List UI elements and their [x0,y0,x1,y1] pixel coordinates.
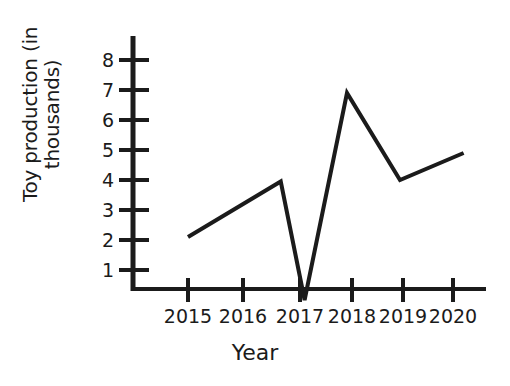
data-series-line [188,93,464,300]
y-tick-label-6: 6 [102,109,114,131]
y-tick-label-8: 8 [102,49,114,71]
x-tick-label-2017: 2017 [276,305,324,327]
x-tick-label-2020: 2020 [429,305,477,327]
x-tick-label-2015: 2015 [164,305,212,327]
line-chart: 8 7 6 5 4 3 2 1 2015 2016 2017 2018 2019… [0,0,510,386]
y-tick-label-1: 1 [102,259,114,281]
x-tick-label-2019: 2019 [379,305,427,327]
y-tick-label-3: 3 [102,199,114,221]
x-tick-label-2016: 2016 [219,305,267,327]
y-tick-labels: 8 7 6 5 4 3 2 1 [102,49,114,281]
chart-plot-area: 8 7 6 5 4 3 2 1 2015 2016 2017 2018 2019… [0,0,510,386]
y-tick-label-2: 2 [102,229,114,251]
y-axis-title-line-2: thousands) [41,0,63,239]
y-axis-title-line-1: Toy production (in [19,0,41,239]
y-axis-title: Toy production (in thousands) [19,0,64,239]
y-tick-label-4: 4 [102,169,114,191]
y-tick-label-5: 5 [102,139,114,161]
x-axis-title: Year [0,340,510,365]
y-tick-label-7: 7 [102,79,114,101]
x-tick-labels: 2015 2016 2017 2018 2019 2020 [164,305,477,327]
x-tick-label-2018: 2018 [328,305,376,327]
